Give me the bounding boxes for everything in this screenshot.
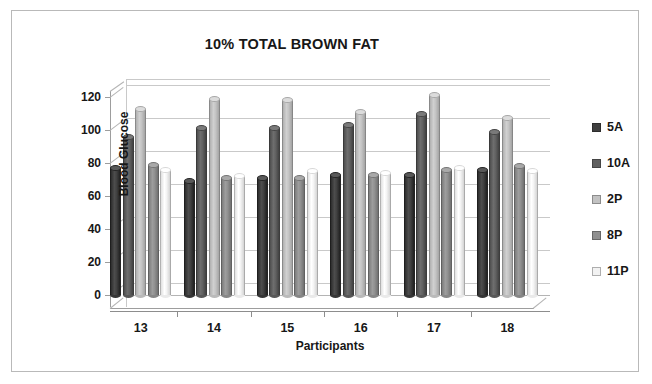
bar-11p-15: [307, 171, 318, 295]
x-axis-tick-label: 17: [427, 321, 441, 335]
gridline: [126, 151, 550, 152]
bar-8p-13: [148, 165, 159, 295]
bar-cap: [148, 162, 159, 168]
x-axis-tick-mark: [177, 311, 178, 317]
bar-10a-15: [269, 128, 280, 295]
bar-body: [184, 181, 195, 295]
bar-body: [282, 100, 293, 295]
bar-body: [380, 173, 391, 295]
bar-8p-17: [441, 170, 452, 295]
bar-5a-17: [404, 175, 415, 295]
legend-item-label: 10A: [607, 157, 630, 170]
bar-body: [269, 128, 280, 295]
bar-2p-15: [282, 100, 293, 295]
bar-body: [307, 171, 318, 295]
bar-cap: [135, 106, 146, 112]
y-axis-tick-label: 0: [57, 288, 101, 302]
floor-front-edge: [110, 308, 534, 309]
chart-title: 10% TOTAL BROWN FAT: [12, 36, 572, 52]
x-axis-line: [110, 311, 550, 312]
bar-2p-16: [355, 112, 366, 295]
bar-body: [343, 125, 354, 295]
gridline: [126, 85, 550, 86]
bar-8p-15: [294, 178, 305, 295]
y-axis-tick-mark: [105, 130, 110, 131]
x-axis-tick-label: 18: [500, 321, 514, 335]
y-axis-tick-label: 120: [57, 90, 101, 104]
bar-cap: [209, 96, 220, 102]
x-axis-tick-mark: [324, 311, 325, 317]
plot-back-wall-top: [126, 79, 550, 80]
bar-5a-18: [477, 170, 488, 295]
bar-2p-14: [209, 99, 220, 295]
bar-body: [527, 171, 538, 295]
gridline: [126, 118, 550, 119]
x-axis-tick-label: 15: [280, 321, 294, 335]
bar-11p-17: [454, 168, 465, 295]
bar-body: [221, 178, 232, 295]
legend-item-11p[interactable]: 11P: [592, 265, 629, 278]
bar-body: [502, 118, 513, 295]
bar-cap: [404, 172, 415, 178]
bar-cap: [441, 167, 452, 173]
y-axis-tick-label: 100: [57, 123, 101, 137]
bar-body: [196, 128, 207, 295]
legend-item-label: 2P: [607, 193, 622, 206]
bar-body: [330, 175, 341, 295]
chart-page: 10% TOTAL BROWN FAT 020406080100120 1314…: [0, 0, 652, 384]
y-axis-tick-label: 20: [57, 255, 101, 269]
bar-11p-13: [160, 170, 171, 295]
bar-10a-18: [489, 132, 500, 295]
bar-body: [209, 99, 220, 295]
floor-right-edge: [533, 297, 547, 308]
bar-8p-18: [514, 166, 525, 295]
y-axis-tick-label: 60: [57, 189, 101, 203]
bar-body: [429, 95, 440, 295]
bar-body: [234, 176, 245, 295]
bar-body: [514, 166, 525, 295]
legend-item-2p[interactable]: 2P: [592, 193, 622, 206]
bar-body: [355, 112, 366, 295]
bar-body: [160, 170, 171, 295]
bar-cap: [294, 175, 305, 181]
bar-body: [454, 168, 465, 295]
legend-item-label: 11P: [607, 265, 629, 278]
bar-cap: [477, 167, 488, 173]
legend-item-label: 8P: [607, 229, 622, 242]
bar-10a-14: [196, 128, 207, 295]
y-axis-tick-label: 40: [57, 222, 101, 236]
bar-cap: [343, 122, 354, 128]
bar-2p-18: [502, 118, 513, 295]
bar-2p-13: [135, 109, 146, 295]
x-axis-title: Participants: [110, 339, 550, 353]
bar-body: [404, 175, 415, 295]
bar-body: [257, 178, 268, 295]
legend-swatch-icon: [592, 159, 601, 168]
legend-swatch-icon: [592, 267, 601, 276]
bar-cap: [416, 111, 427, 117]
legend-item-5a[interactable]: 5A: [592, 121, 623, 134]
x-axis-tick-mark: [251, 311, 252, 317]
bar-cap: [234, 173, 245, 179]
x-axis-tick-mark: [397, 311, 398, 317]
bar-5a-16: [330, 175, 341, 295]
bar-body: [416, 114, 427, 296]
legend-item-8p[interactable]: 8P: [592, 229, 622, 242]
y-axis-tick-mark: [105, 163, 110, 164]
y-axis-tick-mark: [105, 97, 110, 98]
y-axis-title: Blood Glucose: [117, 74, 131, 234]
legend-item-10a[interactable]: 10A: [592, 157, 630, 170]
legend-item-label: 5A: [607, 121, 623, 134]
x-axis-tick-label: 16: [354, 321, 368, 335]
plot-area: 020406080100120 131415161718 Blood Gluco…: [110, 91, 550, 307]
bar-cap: [257, 175, 268, 181]
x-axis-tick-label: 13: [134, 321, 148, 335]
bar-5a-14: [184, 181, 195, 295]
bar-cap: [184, 178, 195, 184]
bar-cap: [489, 129, 500, 135]
bar-cap: [368, 172, 379, 178]
bar-11p-18: [527, 171, 538, 295]
bar-body: [294, 178, 305, 295]
bar-8p-14: [221, 178, 232, 295]
bar-5a-15: [257, 178, 268, 295]
